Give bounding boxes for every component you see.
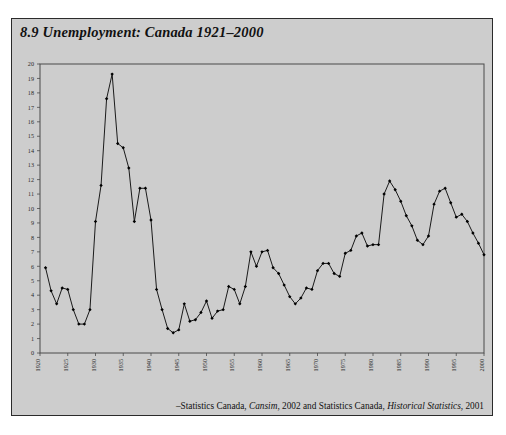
- source-italic-cansim: Cansim: [249, 401, 277, 411]
- data-point: [72, 308, 75, 311]
- data-point: [188, 320, 191, 323]
- y-tick-label: 19: [28, 75, 34, 82]
- plot-frame: [40, 64, 484, 353]
- data-point: [83, 322, 86, 325]
- x-axis: 1920192519301935194019451950195519601965…: [34, 353, 485, 371]
- data-point: [205, 299, 208, 302]
- y-tick-label: 2: [31, 320, 34, 327]
- data-point: [482, 253, 485, 256]
- y-tick-label: 3: [31, 306, 34, 313]
- data-point: [310, 288, 313, 291]
- x-tick-label: 1920: [34, 359, 41, 371]
- data-point: [61, 286, 64, 289]
- x-tick-label: 1980: [367, 359, 374, 371]
- data-point: [382, 192, 385, 195]
- data-point: [355, 234, 358, 237]
- x-tick-label: 1975: [339, 359, 346, 371]
- source-prefix: –Statistics Canada,: [176, 401, 249, 411]
- chart-plot-area: 01234567891011121314151617181920 1920192…: [12, 19, 494, 417]
- data-point: [66, 288, 69, 291]
- data-point: [133, 220, 136, 223]
- y-tick-label: 20: [28, 60, 34, 67]
- data-point: [77, 322, 80, 325]
- x-tick-label: 1925: [62, 359, 69, 371]
- y-tick-label: 16: [28, 118, 34, 125]
- series-line-unemployment: [46, 74, 484, 333]
- data-point: [244, 285, 247, 288]
- data-point: [349, 249, 352, 252]
- y-tick-label: 0: [31, 349, 34, 356]
- data-point: [338, 275, 341, 278]
- x-tick-label: 1955: [228, 359, 235, 371]
- x-tick-label: 1960: [256, 359, 263, 371]
- y-tick-label: 10: [28, 205, 34, 212]
- x-tick-label: 1940: [145, 359, 152, 371]
- source-middle: , 2002 and Statistics Canada,: [277, 401, 387, 411]
- data-point: [105, 97, 108, 100]
- data-point: [44, 266, 47, 269]
- source-caption: –Statistics Canada, Cansim, 2002 and Sta…: [176, 401, 484, 411]
- data-point: [221, 308, 224, 311]
- data-point: [160, 308, 163, 311]
- data-point: [233, 288, 236, 291]
- series-markers: [44, 72, 486, 334]
- y-tick-label: 11: [28, 190, 34, 197]
- data-point: [443, 187, 446, 190]
- figure-panel: 8.9 Unemployment: Canada 1921–2000 01234…: [11, 18, 493, 416]
- y-tick-label: 4: [31, 291, 34, 298]
- data-point: [399, 200, 402, 203]
- data-point: [177, 328, 180, 331]
- data-point: [49, 289, 52, 292]
- y-tick-label: 14: [28, 147, 34, 154]
- data-point: [366, 244, 369, 247]
- data-point: [227, 285, 230, 288]
- data-point: [144, 187, 147, 190]
- data-point: [344, 252, 347, 255]
- y-tick-label: 17: [28, 104, 34, 111]
- x-tick-label: 1935: [117, 359, 124, 371]
- y-tick-label: 8: [31, 234, 34, 241]
- data-point: [238, 302, 241, 305]
- data-point: [360, 231, 363, 234]
- data-point: [94, 220, 97, 223]
- x-tick-label: 1970: [312, 359, 319, 371]
- data-point: [110, 72, 113, 75]
- y-axis: 01234567891011121314151617181920: [28, 60, 40, 356]
- data-point: [377, 243, 380, 246]
- data-point: [183, 302, 186, 305]
- data-point: [449, 201, 452, 204]
- x-tick-label: 2000: [478, 359, 485, 371]
- data-point: [249, 250, 252, 253]
- x-tick-label: 1995: [450, 359, 457, 371]
- y-tick-label: 7: [31, 248, 34, 255]
- data-point: [55, 302, 58, 305]
- data-point: [155, 288, 158, 291]
- y-tick-label: 15: [28, 132, 34, 139]
- y-tick-label: 9: [31, 219, 34, 226]
- x-tick-label: 1990: [423, 359, 430, 371]
- source-suffix: , 2001: [461, 401, 484, 411]
- x-tick-label: 1930: [90, 359, 97, 371]
- data-point: [438, 189, 441, 192]
- unemployment-line-chart: 01234567891011121314151617181920 1920192…: [12, 19, 494, 417]
- data-point: [371, 243, 374, 246]
- data-point: [455, 215, 458, 218]
- data-point: [138, 187, 141, 190]
- source-italic-historical: Historical Statistics: [387, 401, 461, 411]
- y-tick-label: 18: [28, 89, 34, 96]
- y-tick-label: 6: [31, 263, 34, 270]
- figure-page: 8.9 Unemployment: Canada 1921–2000 01234…: [0, 0, 506, 435]
- data-point: [432, 202, 435, 205]
- data-point: [260, 250, 263, 253]
- y-tick-label: 5: [31, 277, 34, 284]
- data-point: [149, 218, 152, 221]
- y-tick-label: 12: [28, 176, 34, 183]
- x-tick-label: 1945: [173, 359, 180, 371]
- x-tick-label: 1965: [284, 359, 291, 371]
- x-tick-label: 1985: [395, 359, 402, 371]
- data-point: [283, 283, 286, 286]
- y-tick-label: 13: [28, 161, 34, 168]
- data-point: [88, 308, 91, 311]
- x-tick-label: 1950: [201, 359, 208, 371]
- data-point: [99, 184, 102, 187]
